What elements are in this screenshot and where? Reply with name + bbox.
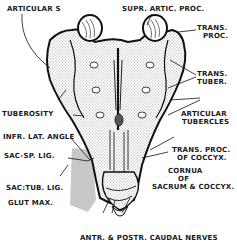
label-sacrotuberous-ligament: SAC:TUB. LIG. [6,184,63,192]
label-cornua-1: CORNUA [168,167,202,175]
coccyx [102,172,138,210]
label-transverse-tubercles-1: TRANS. [197,70,227,78]
label-transverse-process-2: PROC. [203,32,228,40]
label-cornua-3: SACRUM & COCCYX. [152,183,234,191]
label-superior-articular-process: SUPR. ARTIC. PROC. [122,5,204,13]
label-trans-proc-coccyx-2: OF COCCYX. [177,154,227,162]
label-tuberosity: TUBEROSITY [2,110,53,118]
anatomy-figure: ARTICULAR S SUPR. ARTIC. PROC. TRANS. PR… [0,0,237,246]
label-transverse-process-1: TRANS. [197,24,227,32]
label-inferior-lateral-angle: INFR. LAT. ANGLE [3,133,74,141]
label-articular-tubercles-1: ARTICULAR [181,110,227,118]
label-cornua-2: OF [178,175,189,183]
label-articular-surface: ARTICULAR S [7,5,61,13]
label-caudal-nerves: ANTR. & POSTR. CAUDAL NERVES [80,234,218,242]
label-trans-proc-coccyx-1: TRANS. PROC. [172,146,230,154]
label-articular-tubercles-2: TUBERCLES [182,118,229,126]
label-gluteus-maximus: GLUT MAX. [8,199,53,207]
label-transverse-tubercles-2: TUBER. [197,78,227,86]
label-sacrospinous-ligament: SAC-SP. LIG. [4,152,55,160]
